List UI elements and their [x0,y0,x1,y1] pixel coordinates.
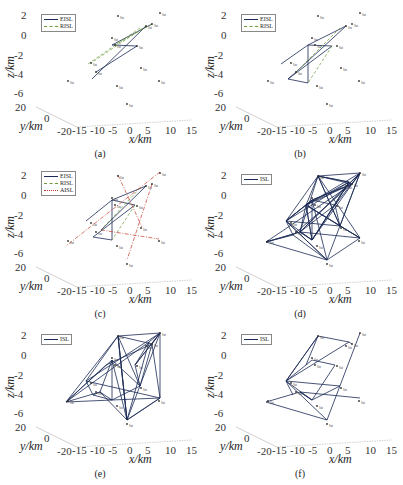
x-tick: 15 [186,445,197,456]
legend-item: EISL [44,173,73,180]
y-axis-label: y/km [20,439,43,454]
z-axis-label: z/km [203,216,218,238]
svg-text:Sat: Sat [329,104,333,108]
svg-text:Sat: Sat [98,232,102,236]
svg-text:Sat: Sat [343,388,347,392]
svg-text:Sat: Sat [314,198,318,202]
svg-text:Sat: Sat [293,63,297,67]
z-tick: 2 [221,10,227,21]
svg-text:Sat: Sat [114,38,118,42]
legend-item: EISL [44,16,73,23]
x-tick: -15 [272,445,287,456]
y-tick: 0 [244,433,250,444]
plot-area: SatSatSatSatSatSatSatSatSatSatSatSatSatS… [0,0,200,160]
y-tick: 20 [215,102,226,113]
y-tick: 0 [244,273,250,284]
x-tick: -5 [308,285,317,296]
panel-e: SatSatSatSatSatSatSatSatSatSatSatSatSatS… [0,320,200,480]
x-tick: 10 [365,445,376,456]
y-tick: 20 [215,422,226,433]
x-tick: -10 [90,125,105,136]
legend-item: RISL [44,23,73,30]
x-tick: -10 [290,445,305,456]
svg-text:Sat: Sat [143,228,147,232]
legend-item: ISL [44,336,69,343]
svg-text:Sat: Sat [117,45,121,49]
panel-c: SatSatSatSatSatSatSatSatSatSatSatSatSatS… [0,160,200,320]
svg-text:Sat: Sat [329,264,333,268]
svg-text:Sat: Sat [339,206,343,210]
y-tick: -20 [257,286,272,297]
z-tick: 0 [21,350,27,361]
z-axis-label: z/km [203,56,218,78]
y-tick: 20 [215,262,226,273]
svg-text:Sat: Sat [320,336,324,340]
svg-text:Sat: Sat [154,344,158,348]
svg-text:Sat: Sat [161,401,165,405]
svg-text:Sat: Sat [329,424,333,428]
svg-text:Sat: Sat [319,246,323,250]
x-tick: -5 [108,445,117,456]
y-tick: -20 [57,126,72,137]
x-tick: 10 [165,445,176,456]
y-tick: 0 [244,113,250,124]
svg-text:Sat: Sat [98,72,102,76]
x-axis-label: x/km [129,452,152,467]
svg-text:Sat: Sat [293,223,297,227]
svg-text:Sat: Sat [298,72,302,76]
z-tick: 0 [221,30,227,41]
panel-caption: (a) [0,148,200,159]
panel-caption: (c) [0,308,200,319]
z-axis-label: z/km [3,376,18,398]
svg-text:Sat: Sat [154,24,158,28]
x-tick: -15 [272,285,287,296]
svg-text:Sat: Sat [148,26,152,30]
svg-text:Sat: Sat [70,401,74,405]
svg-text:Sat: Sat [117,205,121,209]
svg-text:Sat: Sat [143,388,147,392]
x-tick: -5 [108,285,117,296]
svg-text:Sat: Sat [270,81,274,85]
z-tick: 0 [221,190,227,201]
svg-text:Sat: Sat [348,26,352,30]
legend: ISL [241,334,272,345]
legend: EISLRISL [41,14,76,32]
y-tick: 20 [15,262,26,273]
legend: EISLRISLAISL [41,171,76,196]
y-axis-label: y/km [220,119,243,134]
legend-item: RISL [44,180,73,187]
svg-text:Sat: Sat [317,365,321,369]
svg-text:Sat: Sat [354,24,358,28]
x-tick: 15 [386,285,397,296]
svg-text:Sat: Sat [120,336,124,340]
svg-text:Sat: Sat [320,16,324,20]
svg-text:Sat: Sat [119,86,123,90]
svg-text:Sat: Sat [148,186,152,190]
svg-text:Sat: Sat [93,383,97,387]
svg-text:Sat: Sat [314,38,318,42]
svg-text:Sat: Sat [114,198,118,202]
x-tick: -5 [108,125,117,136]
plot-area: SatSatSatSatSatSatSatSatSatSatSatSatSatS… [0,160,200,320]
x-tick: 10 [165,285,176,296]
svg-text:Sat: Sat [361,241,365,245]
svg-text:Sat: Sat [162,173,166,177]
x-tick: 15 [386,445,397,456]
svg-text:Sat: Sat [320,176,324,180]
x-tick: 15 [186,285,197,296]
z-tick: 0 [21,30,27,41]
plot-area: SatSatSatSatSatSatSatSatSatSatSatSatSatS… [200,320,400,480]
svg-text:Sat: Sat [119,406,123,410]
svg-text:Sat: Sat [129,264,133,268]
svg-text:Sat: Sat [362,173,366,177]
y-tick: -20 [257,126,272,137]
z-tick: 2 [221,330,227,341]
legend-item: EISL [244,16,273,23]
svg-text:Sat: Sat [343,228,347,232]
z-axis-label: z/km [203,376,218,398]
y-tick: 0 [44,273,50,284]
legend: ISL [41,334,72,345]
y-axis-label: y/km [20,119,43,134]
y-tick: 20 [15,102,26,113]
x-axis-label: x/km [129,132,152,147]
